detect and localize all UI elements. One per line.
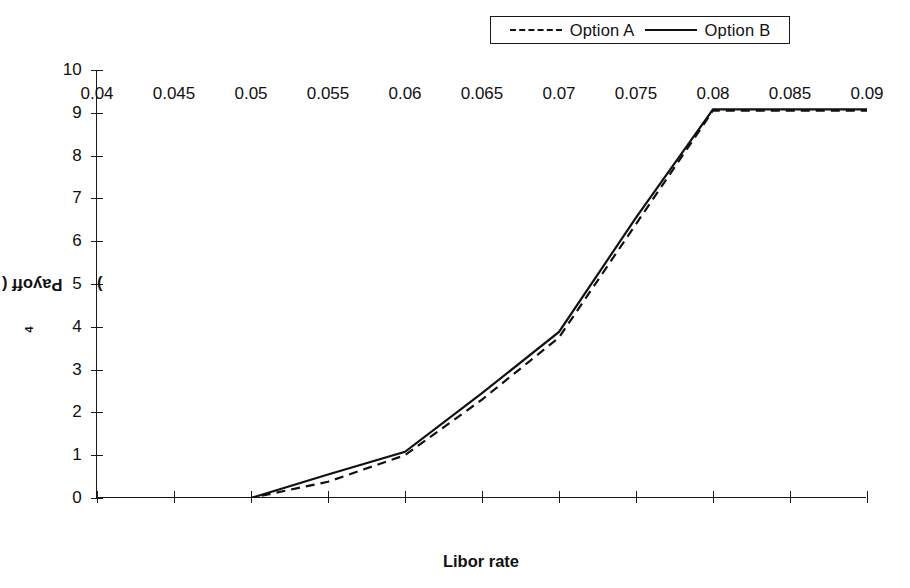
y-axis-title-exponent: 4 (24, 326, 36, 332)
y-axis-tick-label: 3 (72, 360, 81, 380)
x-axis-tick-label: 0.09 (850, 84, 883, 104)
x-axis-tick-label: 0.07 (542, 84, 575, 104)
x-axis-tick (482, 491, 483, 503)
x-axis-tick-label: 0.055 (307, 84, 350, 104)
x-axis-tick-label: 0.04 (80, 84, 113, 104)
x-axis-tick (251, 491, 252, 503)
y-axis-tick-label: 8 (72, 146, 81, 166)
x-axis-tick-label: 0.05 (234, 84, 267, 104)
series-line-option-b (97, 109, 867, 498)
x-axis-tick (559, 491, 560, 503)
legend-swatch-dashed-icon (510, 29, 562, 31)
y-axis-tick (91, 70, 103, 71)
y-axis-tick-label: 5 (72, 274, 81, 294)
legend-label-option-b: Option B (705, 21, 771, 40)
y-axis-tick-label: 9 (72, 103, 81, 123)
legend-swatch-solid-icon (645, 29, 697, 31)
y-axis-tick-label: 1 (72, 445, 81, 465)
x-axis-tick (405, 491, 406, 503)
y-axis-tick-label: 0 (72, 488, 81, 508)
legend-entry-option-a: Option A (510, 21, 635, 40)
y-axis-tick (91, 241, 103, 242)
y-axis-title: Payoff ( x 104 ) (20, 70, 48, 498)
y-axis-tick-label: 7 (72, 188, 81, 208)
x-axis-tick (97, 491, 98, 503)
legend-label-option-a: Option A (570, 21, 635, 40)
y-axis-title-tail: ) (5, 275, 102, 294)
x-axis-tick (328, 491, 329, 503)
y-axis-tick (91, 198, 103, 199)
chart-legend: Option A Option B (490, 16, 790, 44)
series-line-option-a (97, 111, 867, 498)
y-axis-tick-label: 4 (72, 317, 81, 337)
chart-figure: Option A Option B Payoff ( x 104 ) 01234… (0, 0, 910, 588)
y-axis-tick-label: 6 (72, 231, 81, 251)
x-axis-tick-label: 0.065 (461, 84, 504, 104)
y-axis-tick (91, 284, 103, 285)
x-axis-tick-label: 0.06 (388, 84, 421, 104)
y-axis-tick-label: 2 (72, 402, 81, 422)
x-axis-tick (790, 491, 791, 503)
x-axis-tick-label: 0.045 (153, 84, 196, 104)
x-axis-tick-label: 0.08 (696, 84, 729, 104)
y-axis-tick (91, 156, 103, 157)
x-axis-title: Libor rate (96, 552, 866, 571)
y-axis-tick (91, 327, 103, 328)
y-axis-tick (91, 412, 103, 413)
y-axis-tick-label: 10 (63, 60, 82, 80)
y-axis-tick (91, 455, 103, 456)
legend-entry-option-b: Option B (645, 21, 771, 40)
x-axis-tick-label: 0.075 (615, 84, 658, 104)
x-axis-tick-label: 0.085 (769, 84, 812, 104)
y-axis-tick (91, 370, 103, 371)
x-axis-tick (713, 491, 714, 503)
y-axis-tick (91, 113, 103, 114)
x-axis-tick (867, 491, 868, 503)
plot-area: 0123456789100.040.0450.050.0550.060.0650… (96, 70, 866, 498)
x-axis-tick (174, 491, 175, 503)
x-axis-tick (636, 491, 637, 503)
plot-lines (97, 70, 867, 498)
